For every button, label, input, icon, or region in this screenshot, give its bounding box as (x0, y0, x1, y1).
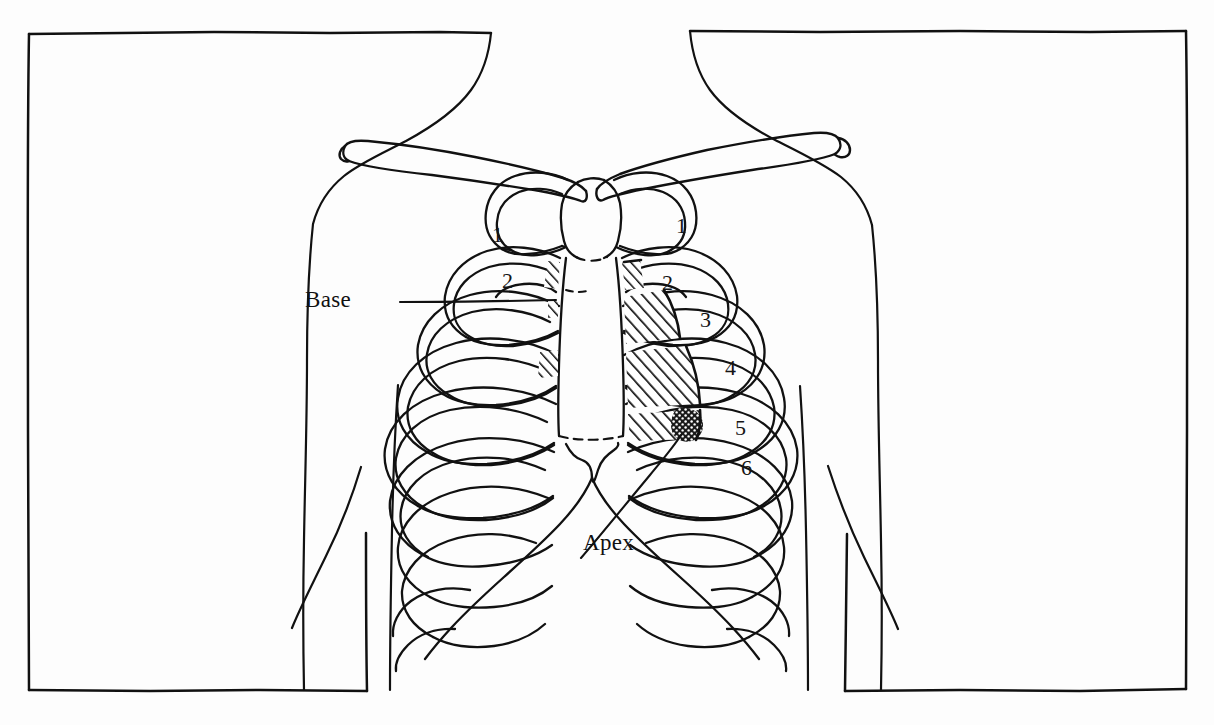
clavicle-left (340, 141, 587, 202)
page-frame (28, 31, 1188, 691)
rib-number-right-5: 5 (735, 415, 746, 441)
rib-number-right-2: 2 (662, 270, 673, 296)
rib-number-right-1: 1 (676, 213, 687, 239)
rib-number-right-6: 6 (741, 455, 752, 481)
chest-anatomy-drawing (0, 0, 1214, 725)
rib-number-left-2: 2 (502, 268, 513, 294)
torso-outline (292, 31, 898, 690)
label-apex: Apex (583, 530, 634, 556)
rib-number-left-1: 1 (492, 222, 503, 248)
ribs-left (385, 173, 592, 671)
sternum (558, 178, 624, 481)
rib-number-right-3: 3 (700, 307, 711, 333)
base-leader-line (400, 300, 556, 302)
rib-number-right-4: 4 (725, 355, 736, 381)
figure-canvas: Base Apex 1 2 1 2 3 4 5 6 (0, 0, 1214, 725)
label-base: Base (305, 287, 351, 313)
